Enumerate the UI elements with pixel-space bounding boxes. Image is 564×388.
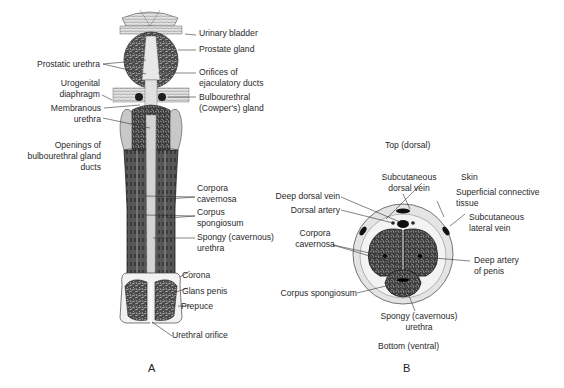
label-spongiosum: spongiosum bbox=[197, 218, 243, 229]
label-spongy-cavernous-b: Spongy (cavernous) bbox=[379, 311, 459, 322]
label-subcutaneous-dorsal: Subcutaneous bbox=[379, 172, 439, 183]
label-prepuce: Prepuce bbox=[181, 301, 213, 312]
label-deep-dorsal-vein: Deep dorsal vein bbox=[276, 191, 341, 202]
label-cavernosa: cavernosa bbox=[197, 194, 237, 205]
label-superficial-connective: Superficial connective bbox=[456, 187, 540, 198]
label-ejaculatory-ducts: ejaculatory ducts bbox=[199, 78, 264, 89]
label-corpus: Corpus bbox=[197, 207, 225, 218]
label-top-dorsal: Top (dorsal) bbox=[385, 140, 430, 151]
label-of-penis: of penis bbox=[474, 266, 504, 277]
label-glans-penis: Glans penis bbox=[182, 286, 227, 297]
label-urethra-membranous: urethra bbox=[74, 114, 101, 125]
label-prostatic-urethra: Prostatic urethra bbox=[37, 59, 100, 70]
label-ducts: ducts bbox=[80, 162, 101, 173]
label-corona: Corona bbox=[182, 270, 210, 281]
label-corpora: Corpora bbox=[197, 183, 228, 194]
label-bulbourethral-gland: bulbourethral gland bbox=[27, 151, 101, 162]
label-dorsal-vein: dorsal vein bbox=[379, 183, 439, 194]
label-openings-of: Openings of bbox=[55, 140, 101, 151]
label-corpora-b: Corpora bbox=[290, 228, 340, 239]
anatomy-figure: Urinary bladder Prostate gland Orifices … bbox=[0, 0, 564, 388]
label-orifices-of: Orifices of bbox=[199, 67, 238, 78]
label-urogenital: Urogenital bbox=[61, 78, 100, 89]
label-urethral-orifice: Urethral orifice bbox=[172, 330, 228, 341]
label-cavernosa-b: cavernosa bbox=[290, 239, 340, 250]
panel-letter-b: B bbox=[403, 362, 410, 374]
label-urethra-a: urethra bbox=[197, 243, 224, 254]
label-skin: Skin bbox=[461, 172, 478, 183]
label-dorsal-artery: Dorsal artery bbox=[291, 205, 340, 216]
label-bottom-ventral: Bottom (ventral) bbox=[378, 341, 439, 352]
label-prostate-gland: Prostate gland bbox=[199, 44, 254, 55]
label-tissue: tissue bbox=[456, 198, 478, 209]
longitudinal-section-drawing bbox=[113, 10, 189, 324]
label-membranous: Membranous bbox=[51, 103, 101, 114]
label-spongy-cavernous: Spongy (cavernous) bbox=[197, 232, 274, 243]
cross-section-drawing bbox=[353, 204, 453, 304]
label-corpus-spongiosum-b: Corpus spongiosum bbox=[281, 288, 357, 299]
label-deep-artery: Deep artery bbox=[474, 255, 519, 266]
label-urinary-bladder: Urinary bladder bbox=[199, 28, 258, 39]
label-cowpers-gland: (Cowper's) gland bbox=[199, 103, 264, 114]
label-bulbourethral: Bulbourethral bbox=[199, 92, 250, 103]
panel-letter-a: A bbox=[148, 362, 155, 374]
label-lateral-vein: lateral vein bbox=[469, 223, 511, 234]
label-urethra-b: urethra bbox=[379, 322, 459, 333]
label-diaphragm: diaphragm bbox=[59, 89, 100, 100]
label-subcutaneous-lateral: Subcutaneous bbox=[469, 212, 524, 223]
